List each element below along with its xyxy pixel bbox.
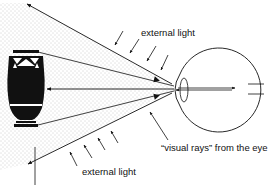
external-light-label-top: external light bbox=[141, 28, 195, 38]
external-light-label-bottom: external light bbox=[82, 167, 136, 177]
extramission-diagram bbox=[0, 0, 270, 185]
visual-rays-label: “visual rays” from the eye bbox=[161, 143, 268, 153]
visual-rays-pointer bbox=[150, 112, 168, 140]
